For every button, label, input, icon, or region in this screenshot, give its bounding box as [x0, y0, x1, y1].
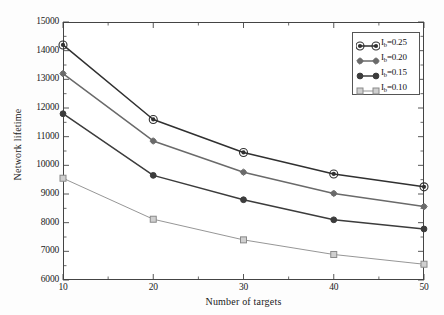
legend-label: Ib=0.10: [380, 83, 407, 94]
y-axis-title: Network lifetime: [12, 80, 23, 210]
legend-marker-icon: [356, 68, 380, 80]
x-axis-tick-labels: 1020304050: [0, 283, 444, 297]
legend-item-I_b=0.20[interactable]: Ib=0.20: [356, 51, 417, 66]
legend-marker-icon: [356, 53, 380, 65]
legend-label: Ib=0.15: [380, 68, 407, 79]
legend-marker-icon: [356, 38, 380, 50]
x-axis-title: Number of targets: [63, 296, 424, 307]
x-tick-50: 50: [409, 283, 439, 293]
chart-figure: 6000700080009000100001100012000130001400…: [0, 0, 444, 315]
legend-item-I_b=0.15[interactable]: Ib=0.15: [356, 66, 417, 81]
legend-marker-icon: [356, 83, 380, 95]
legend-item-I_b=0.25[interactable]: Ib=0.25: [356, 36, 417, 51]
x-tick-20: 20: [138, 283, 168, 293]
chart-legend: Ib=0.25Ib=0.20Ib=0.15Ib=0.10: [352, 32, 420, 95]
legend-item-I_b=0.10[interactable]: Ib=0.10: [356, 81, 417, 96]
x-tick-40: 40: [319, 283, 349, 293]
x-tick-30: 30: [229, 283, 259, 293]
x-tick-10: 10: [48, 283, 78, 293]
series-0: [60, 175, 427, 267]
legend-label: Ib=0.25: [380, 38, 407, 49]
legend-label: Ib=0.20: [380, 53, 407, 64]
